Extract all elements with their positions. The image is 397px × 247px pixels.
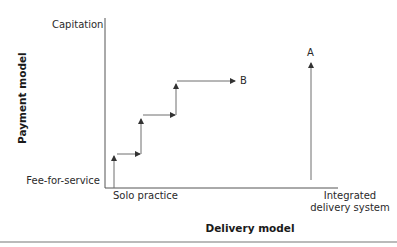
path-b-label: B xyxy=(240,75,247,87)
path-b-staircase xyxy=(114,81,235,188)
path-a-label: A xyxy=(307,47,314,59)
y-axis-top-label: Capitation xyxy=(52,19,100,31)
axes xyxy=(105,18,338,188)
y-axis-bottom-label: Fee-for-service xyxy=(20,175,100,187)
x-axis-title: Delivery model xyxy=(200,222,300,234)
y-axis-title: Payment model xyxy=(16,64,28,144)
x-axis-left-label: Solo practice xyxy=(113,190,178,202)
x-axis-right-label-line2: delivery system xyxy=(300,202,397,214)
x-axis-right-label-line1: Integrated xyxy=(300,190,397,202)
